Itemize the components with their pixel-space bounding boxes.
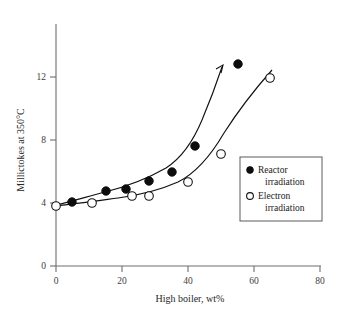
legend-label-reactor-line1: Reactor	[258, 165, 288, 175]
data-point-electron-4	[145, 192, 154, 201]
data-point-reactor-4	[145, 177, 154, 186]
y-tick-label-8: 8	[41, 135, 46, 145]
legend-marker-filled-circle-icon	[247, 167, 254, 174]
chart-canvas: 0 4 8 12 0 20 40 60 80 High boiler, wt% …	[0, 0, 344, 314]
y-tick-label-4: 4	[41, 198, 46, 208]
y-axis-title: Millictokes at 350°C	[15, 108, 26, 192]
data-point-reactor-3	[122, 185, 131, 194]
data-point-electron-5	[184, 178, 193, 187]
data-point-reactor-2	[102, 187, 111, 196]
x-tick-label-60: 60	[249, 276, 259, 286]
data-point-electron-7	[266, 74, 275, 83]
data-point-electron-2	[88, 199, 97, 208]
x-axis-title: High boiler, wt%	[156, 293, 225, 304]
y-tick-label-12: 12	[37, 72, 47, 82]
legend-label-reactor-line2: irradiation	[265, 177, 305, 187]
x-tick-label-20: 20	[117, 276, 127, 286]
data-point-reactor-1	[68, 198, 77, 207]
legend: Reactor irradiation Electron irradiation	[240, 157, 322, 221]
x-tick-label-0: 0	[54, 276, 59, 286]
series-curve-reactor	[56, 67, 222, 205]
chart-figure: 0 4 8 12 0 20 40 60 80 High boiler, wt% …	[0, 0, 344, 314]
legend-marker-open-circle-icon	[247, 193, 254, 200]
data-point-reactor-7	[234, 60, 243, 69]
data-point-electron-1	[52, 202, 61, 211]
data-point-electron-6	[217, 150, 226, 159]
legend-label-electron-line2: irradiation	[265, 203, 305, 213]
data-point-reactor-5	[168, 168, 177, 177]
reactor-curve-arrowhead	[216, 65, 223, 73]
data-point-reactor-6	[191, 142, 200, 151]
y-tick-label-0: 0	[41, 261, 46, 271]
legend-label-electron-line1: Electron	[258, 191, 290, 201]
x-tick-label-80: 80	[315, 276, 325, 286]
x-tick-label-40: 40	[183, 276, 193, 286]
data-point-electron-3	[128, 192, 137, 201]
